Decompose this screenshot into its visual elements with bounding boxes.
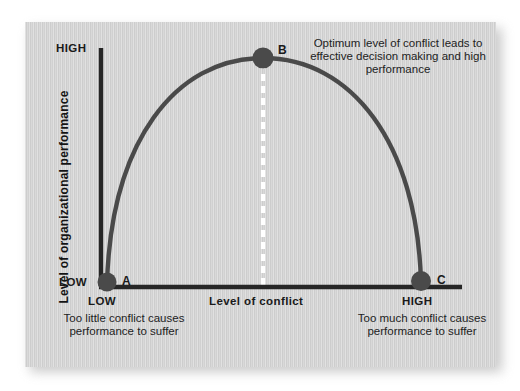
y-tick-low: LOW (59, 276, 87, 289)
point-label-a: A (122, 275, 131, 289)
point-label-b: B (278, 44, 287, 58)
point-marker-b (253, 48, 274, 69)
annotation-optimum: Optimum level of conflict leads to effec… (303, 37, 493, 77)
chart-panel: Level of organizational performance HIGH… (25, 22, 496, 367)
x-axis-title: Level of conflict (209, 295, 303, 308)
point-label-c: C (437, 274, 446, 288)
y-tick-high: HIGH (56, 42, 86, 55)
point-marker-a (98, 273, 117, 292)
x-tick-low: LOW (88, 295, 116, 308)
x-tick-high: HIGH (402, 295, 432, 308)
point-marker-c (411, 271, 431, 291)
figure-page: Level of organizational performance HIGH… (0, 0, 520, 391)
annotation-too-much: Too much conflict causes performance to … (352, 312, 492, 338)
annotation-too-little: Too little conflict causes performance t… (54, 312, 194, 338)
